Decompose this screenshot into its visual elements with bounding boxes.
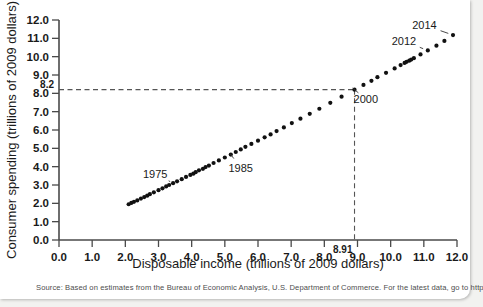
- y-tick-label: 6.0: [33, 124, 49, 136]
- data-point: [399, 63, 403, 67]
- data-point: [263, 135, 267, 139]
- x-tick-label: 11.0: [413, 251, 435, 263]
- y-tick-label: 2.0: [33, 197, 49, 209]
- axes-group: [59, 20, 457, 240]
- x-tick-label: 1.0: [84, 251, 100, 263]
- data-point: [412, 56, 416, 60]
- annotation-label-1975: 1975: [143, 168, 167, 180]
- data-point: [434, 44, 438, 48]
- y-tick-label: 7.0: [33, 106, 49, 118]
- data-point: [148, 192, 152, 196]
- data-point: [317, 107, 321, 111]
- data-point: [249, 142, 253, 146]
- data-point: [243, 145, 247, 149]
- data-point: [384, 71, 388, 75]
- y-tick-label: 5.0: [33, 142, 49, 154]
- data-point: [167, 183, 171, 187]
- data-point: [175, 179, 179, 183]
- x-tick-label: 0.0: [51, 251, 67, 263]
- annotation-leader-2014: [441, 31, 449, 34]
- data-point: [135, 198, 139, 202]
- data-points: [127, 33, 456, 206]
- annotation-label-2000: 2000: [354, 93, 378, 105]
- data-point: [418, 52, 422, 56]
- data-point: [156, 188, 160, 192]
- data-point: [207, 163, 211, 167]
- chart-svg: 0.01.02.03.04.05.06.07.08.09.010.011.012…: [0, 0, 470, 272]
- x-reference-label: 8.91: [333, 244, 353, 255]
- data-point: [269, 132, 273, 136]
- x-tick-label: 12.0: [446, 251, 468, 263]
- y-tick-label: 12.0: [27, 14, 49, 26]
- data-point: [180, 177, 184, 181]
- point-annotations: 19751985200020122014: [143, 19, 448, 181]
- y-reference-label: 8.2: [40, 79, 54, 90]
- data-point: [308, 112, 312, 116]
- y-tick-label: 11.0: [27, 32, 49, 44]
- y-tick-label: 10.0: [27, 51, 49, 63]
- y-tick-label: 3.0: [33, 179, 49, 191]
- reference-lines: 8.28.91: [40, 79, 354, 255]
- data-point: [361, 83, 365, 87]
- data-point: [426, 48, 430, 52]
- data-point: [393, 66, 397, 70]
- data-point: [290, 121, 294, 125]
- y-tick-label: 0.0: [33, 234, 49, 246]
- data-point: [442, 39, 446, 43]
- data-point: [217, 158, 221, 162]
- figure-card: 0.01.02.03.04.05.06.07.08.09.010.011.012…: [0, 0, 470, 299]
- data-point: [298, 117, 302, 121]
- data-point: [256, 139, 260, 143]
- data-point: [239, 147, 243, 151]
- data-point: [274, 129, 278, 133]
- data-point: [197, 168, 201, 172]
- annotation-label-1985: 1985: [229, 162, 253, 174]
- y-tick-label: 1.0: [33, 216, 49, 228]
- data-point: [375, 75, 379, 79]
- y-axis-ticks: 0.01.02.03.04.05.06.07.08.09.010.011.012…: [27, 14, 59, 246]
- scatter-chart: 0.01.02.03.04.05.06.07.08.09.010.011.012…: [0, 0, 470, 272]
- x-tick-label: 2.0: [117, 251, 133, 263]
- annotation-label-2014: 2014: [412, 19, 436, 31]
- data-point: [369, 79, 373, 83]
- data-point: [211, 161, 215, 165]
- data-point: [328, 101, 332, 105]
- y-axis-title: Consumer spending (trillions of 2009 dol…: [4, 1, 19, 259]
- x-axis-title: Disposable income (trillions of 2009 dol…: [132, 256, 383, 271]
- data-point: [234, 150, 238, 154]
- data-point: [152, 190, 156, 194]
- data-point: [339, 95, 343, 99]
- data-point: [160, 186, 164, 190]
- annotation-leader-2012: [420, 47, 423, 48]
- data-point: [451, 33, 455, 37]
- annotation-leader-1975: [169, 181, 171, 182]
- y-tick-label: 4.0: [33, 161, 49, 173]
- data-point: [171, 181, 175, 185]
- annotation-label-2012: 2012: [392, 35, 416, 47]
- source-note: Source: Based on estimates from the Bure…: [36, 283, 466, 292]
- data-point: [184, 175, 188, 179]
- data-point: [223, 155, 227, 159]
- data-point: [282, 125, 286, 129]
